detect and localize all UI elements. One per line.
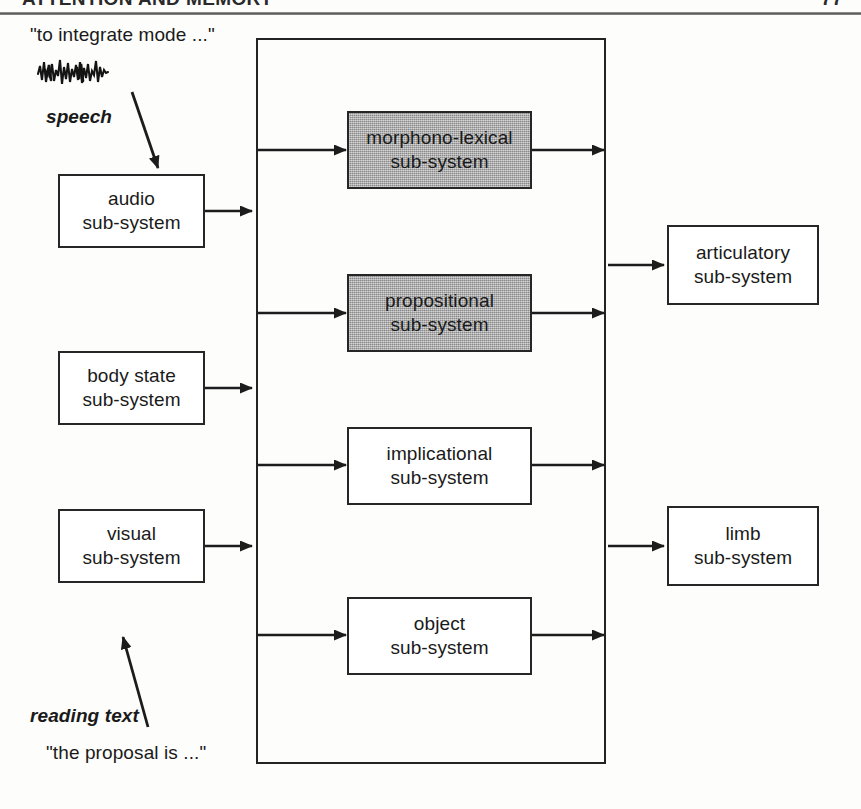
figure-page: ATTENTION AND MEMORY 77	[0, 0, 861, 809]
box-object-line1: object	[414, 612, 465, 636]
speech-waveform-icon	[36, 56, 110, 90]
reading-text-label: reading text	[30, 705, 139, 727]
box-visual-line2: sub-system	[82, 546, 180, 570]
speech-label: speech	[46, 106, 112, 128]
header-rule	[0, 12, 861, 15]
box-implicational-line2: sub-system	[390, 466, 488, 490]
box-limb-line2: sub-system	[694, 546, 792, 570]
page-number: 77	[821, 0, 843, 9]
box-audio-line1: audio	[108, 187, 155, 211]
box-articulatory-line2: sub-system	[694, 265, 792, 289]
box-morphono-lexical-line1: morphono-lexical	[366, 126, 512, 150]
box-propositional-line2: sub-system	[390, 313, 488, 337]
box-object-line2: sub-system	[390, 636, 488, 660]
box-implicational-line1: implicational	[387, 442, 493, 466]
box-limb-sub-system[interactable]: limb sub-system	[667, 506, 819, 586]
box-implicational-sub-system[interactable]: implicational sub-system	[347, 427, 532, 505]
box-propositional-line1: propositional	[385, 289, 494, 313]
arrow-speech-to-audio	[132, 92, 158, 168]
box-body-state-line2: sub-system	[82, 388, 180, 412]
box-articulatory-line1: articulatory	[696, 241, 790, 265]
box-body-state-sub-system[interactable]: body state sub-system	[58, 351, 205, 425]
box-propositional-sub-system[interactable]: propositional sub-system	[347, 274, 532, 352]
box-morphono-lexical-line2: sub-system	[390, 150, 488, 174]
box-audio-sub-system[interactable]: audio sub-system	[58, 174, 205, 248]
box-morphono-lexical-sub-system[interactable]: morphono-lexical sub-system	[347, 111, 532, 189]
box-limb-line1: limb	[725, 522, 760, 546]
speech-quote-text: "to integrate mode ..."	[30, 24, 215, 46]
box-articulatory-sub-system[interactable]: articulatory sub-system	[667, 225, 819, 305]
box-visual-line1: visual	[107, 522, 156, 546]
box-object-sub-system[interactable]: object sub-system	[347, 597, 532, 675]
running-head-left-text: ATTENTION AND MEMORY	[22, 0, 273, 9]
box-audio-line2: sub-system	[82, 211, 180, 235]
running-head-left: ATTENTION AND MEMORY	[22, 0, 273, 10]
box-body-state-line1: body state	[87, 364, 176, 388]
reading-text-quote: "the proposal is ..."	[46, 742, 206, 764]
running-head-right: 77	[821, 0, 843, 10]
box-visual-sub-system[interactable]: visual sub-system	[58, 509, 205, 583]
